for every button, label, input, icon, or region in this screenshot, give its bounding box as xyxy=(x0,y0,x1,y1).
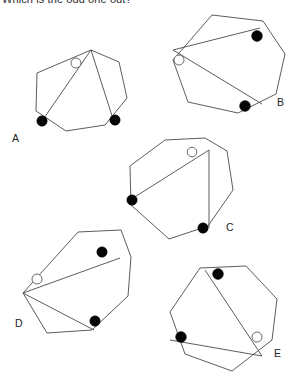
figure-d-filled-dot-1 xyxy=(97,247,107,257)
figure-c-open-dot xyxy=(187,147,197,157)
figure-b-label: B xyxy=(277,96,284,108)
figure-b-filled-dot-1 xyxy=(252,31,263,42)
figures-group: A B C D xyxy=(0,0,301,383)
figure-c-filled-dot-1 xyxy=(127,195,137,205)
figure-e-filled-dot-1 xyxy=(213,269,224,280)
figure-b-polygon xyxy=(173,15,285,113)
figure-d-filled-dot-2 xyxy=(90,316,100,326)
figure-b-filled-dot-2 xyxy=(240,101,251,112)
figure-e[interactable]: E xyxy=(170,266,281,371)
figure-e-open-dot xyxy=(252,332,262,342)
puzzle-canvas: Which is the odd one out? A B xyxy=(0,0,301,383)
figure-e-filled-dot-2 xyxy=(176,332,187,343)
figure-e-polygon xyxy=(170,266,277,371)
figure-b-open-dot xyxy=(174,55,184,65)
figure-d-label: D xyxy=(15,317,23,329)
figure-a-label: A xyxy=(12,132,19,144)
figure-c-filled-dot-2 xyxy=(198,223,208,233)
figure-a-filled-dot-1 xyxy=(37,116,47,126)
figure-c[interactable]: C xyxy=(127,138,234,239)
figure-b[interactable]: B xyxy=(173,15,285,113)
figure-c-polygon xyxy=(130,138,233,239)
figure-c-label: C xyxy=(226,221,234,233)
figure-a[interactable]: A xyxy=(12,50,127,144)
figure-d-open-dot xyxy=(32,274,42,284)
figure-e-label: E xyxy=(274,347,281,359)
figure-a-open-dot xyxy=(71,58,81,68)
figure-a-filled-dot-2 xyxy=(110,115,120,125)
figure-d[interactable]: D xyxy=(15,230,131,333)
